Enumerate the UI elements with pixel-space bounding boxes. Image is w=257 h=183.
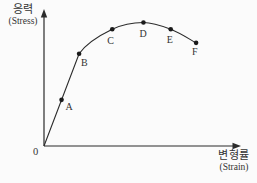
x-axis-title: 변형률 (Strain) (212, 149, 256, 173)
data-point-dot-D (141, 20, 146, 25)
x-axis-label-english: (Strain) (212, 162, 256, 173)
data-point-label-D: D (139, 28, 146, 39)
stress-strain-figure: ABCDEF 응력 (Stress) 변형률 (Strain) 0 (0, 0, 257, 183)
x-axis-label-korean: 변형률 (212, 149, 256, 162)
y-axis-label-english: (Stress) (2, 16, 44, 27)
data-point-dot-B (77, 51, 82, 56)
data-point-label-A: A (66, 101, 74, 112)
origin-label: 0 (33, 146, 38, 157)
data-points: ABCDEF (59, 20, 198, 112)
data-point-dot-F (194, 41, 199, 46)
data-point-dot-E (168, 27, 173, 32)
data-point-label-E: E (167, 34, 173, 45)
data-point-dot-A (59, 98, 64, 103)
stress-strain-curve (44, 23, 196, 147)
y-axis-label-korean: 응력 (2, 3, 44, 16)
curve-path (44, 23, 196, 147)
y-axis-title: 응력 (Stress) (2, 3, 44, 27)
data-point-label-F: F (192, 46, 198, 57)
data-point-dot-C (110, 27, 115, 32)
data-point-label-C: C (107, 35, 114, 46)
data-point-label-B: B (81, 57, 88, 68)
